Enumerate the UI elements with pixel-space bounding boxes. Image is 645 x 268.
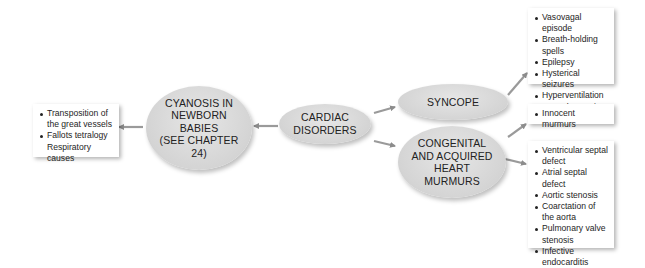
syncope-causes-list: Vasovagal episode Breath-holding spells … — [534, 12, 608, 113]
cyanosis-causes-list: Transposition of the great vessels Fallo… — [39, 108, 113, 164]
list-item: Atrial septal defect — [534, 167, 608, 189]
innocent-murmurs-box: Innocent murmurs — [528, 104, 614, 124]
list-item: Ventricular septal defect — [534, 145, 608, 167]
list-item: Coarctation of the aorta — [534, 201, 608, 223]
list-item: Hysterical seizures — [534, 68, 608, 90]
list-item: Vasovagal episode — [534, 12, 608, 34]
arrow-murmurs-to-innocent — [508, 124, 526, 137]
list-item: Epilepsy — [534, 57, 608, 68]
node-cardiac-disorders: CARDIAC DISORDERS — [279, 104, 371, 144]
node-syncope: SYNCOPE — [398, 84, 508, 120]
innocent-murmurs-list: Innocent murmurs — [534, 108, 608, 130]
list-item: Breath-holding spells — [534, 34, 608, 56]
murmur-causes-list: Ventricular septal defect Atrial septal … — [534, 145, 608, 268]
murmur-causes-box: Ventricular septal defect Atrial septal … — [528, 141, 614, 248]
list-item: Fallots tetralogy — [39, 130, 113, 141]
cyanosis-causes-box: Transposition of the great vessels Fallo… — [33, 104, 119, 157]
list-item: Respiratory causes — [39, 142, 113, 164]
list-item: Infective endocarditis — [534, 246, 608, 268]
list-item: Aortic stenosis — [534, 190, 608, 201]
arrow-murmurs-to-causes — [505, 159, 526, 164]
arrow-cardiac-to-syncope — [374, 107, 395, 113]
list-item: Transposition of the great vessels — [39, 108, 113, 130]
node-heart-murmurs: CONGENITAL AND ACQUIRED HEART MURMURS — [398, 126, 506, 198]
list-item: Innocent murmurs — [534, 108, 608, 130]
node-cyanosis-newborn: CYANOSIS IN NEWBORN BABIES (SEE CHAPTER … — [146, 86, 252, 170]
list-item: Pulmonary valve stenosis — [534, 223, 608, 245]
syncope-causes-box: Vasovagal episode Breath-holding spells … — [528, 8, 614, 84]
arrow-cardiac-to-murmurs — [374, 141, 395, 146]
list-item: Hyperventilation — [534, 90, 608, 101]
arrow-syncope-to-box — [508, 73, 527, 95]
